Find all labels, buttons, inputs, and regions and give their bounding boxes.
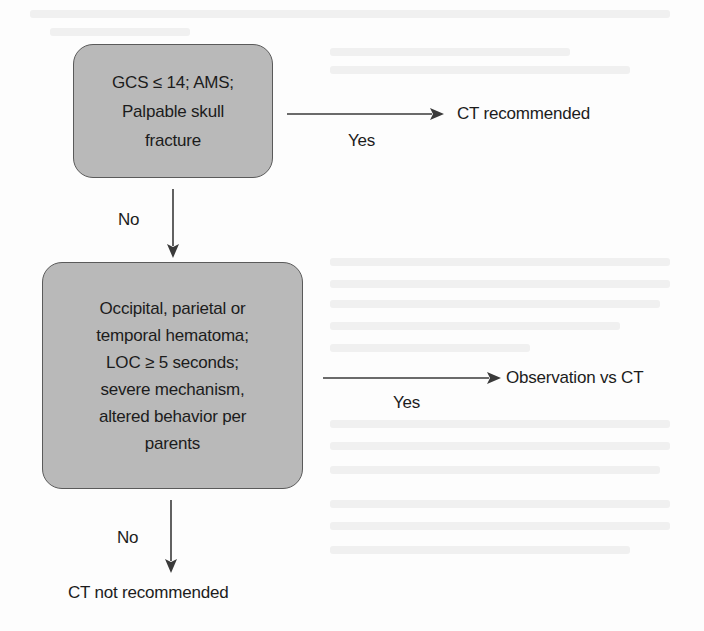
edge-label-no-1: No <box>118 210 139 230</box>
edge-label-yes-2: Yes <box>393 393 420 413</box>
box-line: temporal hematoma; <box>96 322 248 349</box>
arrowhead-right-icon <box>430 108 444 120</box>
arrowhead-down-icon <box>165 559 177 573</box>
outcome-observation-vs-ct: Observation vs CT <box>506 368 643 388</box>
decision-box-hematoma-text: Occipital, parietal or temporal hematoma… <box>96 295 248 457</box>
outcome-ct-not-recommended: CT not recommended <box>68 583 229 603</box>
box-line: LOC ≥ 5 seconds; <box>96 349 248 376</box>
decision-box-gcs-text: GCS ≤ 14; AMS; Palpable skull fracture <box>112 68 234 155</box>
decision-box-hematoma: Occipital, parietal or temporal hematoma… <box>42 262 303 489</box>
box-line: severe mechanism, <box>96 376 248 403</box>
box-line: parents <box>96 430 248 457</box>
box-line: Palpable skull <box>112 97 234 126</box>
box-line: Occipital, parietal or <box>96 295 248 322</box>
edge-label-no-2: No <box>117 528 138 548</box>
box-line: fracture <box>112 126 234 155</box>
arrowhead-right-icon <box>487 372 501 384</box>
decision-box-gcs: GCS ≤ 14; AMS; Palpable skull fracture <box>73 44 273 178</box>
outcome-ct-recommended: CT recommended <box>457 104 590 124</box>
box-line: altered behavior per <box>96 403 248 430</box>
box-line: GCS ≤ 14; AMS; <box>112 68 234 97</box>
arrowhead-down-icon <box>167 244 179 258</box>
flowchart-canvas: GCS ≤ 14; AMS; Palpable skull fracture O… <box>0 0 704 631</box>
edge-label-yes-1: Yes <box>348 131 375 151</box>
